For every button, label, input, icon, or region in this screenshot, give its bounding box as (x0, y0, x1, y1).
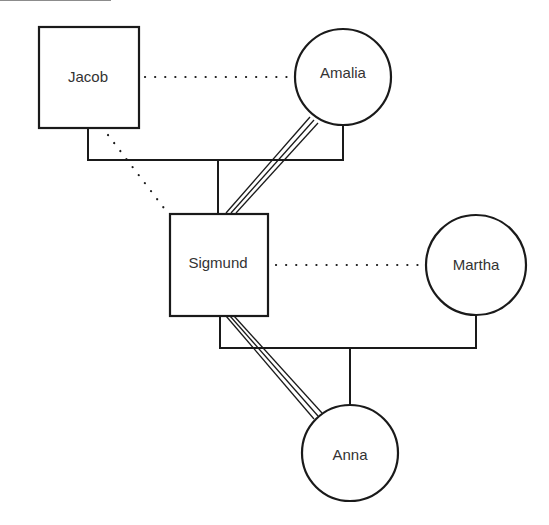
triple-line-amalia-sigmund-3 (236, 123, 318, 213)
label-martha: Martha (453, 256, 500, 273)
triple-line-amalia-sigmund-2 (231, 120, 314, 213)
triple-line-sigmund-anna-2 (230, 316, 318, 416)
label-sigmund: Sigmund (188, 254, 247, 271)
label-amalia: Amalia (320, 64, 367, 81)
dotted-line-jacob-sigmund (108, 135, 167, 212)
triple-line-amalia-sigmund-1 (226, 117, 310, 213)
label-anna: Anna (332, 446, 368, 463)
triple-line-sigmund-anna-1 (226, 316, 314, 419)
label-jacob: Jacob (68, 68, 108, 85)
genogram-diagram: Jacob Amalia Sigmund Martha Anna (0, 0, 549, 525)
triple-line-sigmund-anna-3 (234, 316, 322, 413)
